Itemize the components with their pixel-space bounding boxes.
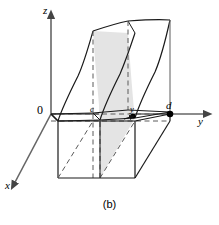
x-axis-label: x bbox=[4, 179, 10, 191]
edge-rear-top-left-link bbox=[51, 114, 58, 121]
y-axis-label: y bbox=[197, 115, 203, 127]
point-label-d: d bbox=[166, 99, 172, 111]
surface-curve-right bbox=[135, 20, 170, 118]
point-label-c: c bbox=[90, 104, 94, 114]
figure-caption: (b) bbox=[0, 197, 219, 211]
point-label-y: y bbox=[129, 104, 134, 114]
hidden-diagonal-left bbox=[58, 121, 93, 178]
x-axis bbox=[13, 114, 51, 186]
surface-curve-front-left bbox=[58, 31, 93, 121]
edge-depth-bottom-right bbox=[135, 121, 170, 178]
surface-ridge-back bbox=[93, 21, 128, 31]
origin-label: 0 bbox=[37, 103, 43, 117]
surface-slice-depth bbox=[128, 21, 135, 33]
three-d-diagram: z y x 0 c y d bbox=[0, 0, 219, 225]
surface-ridge-back-right bbox=[128, 20, 170, 21]
figure-container: z y x 0 c y d (b) bbox=[0, 0, 219, 225]
z-axis-label: z bbox=[42, 4, 48, 16]
point-d-marker bbox=[167, 111, 174, 118]
